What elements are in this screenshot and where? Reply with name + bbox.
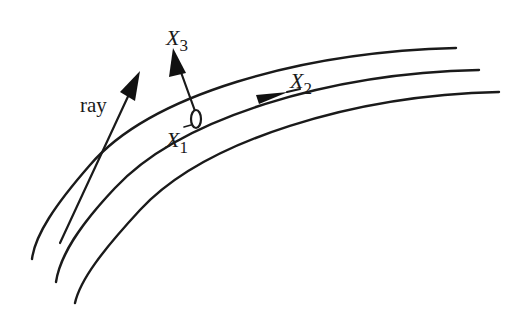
ray-arrowhead-icon	[120, 71, 140, 101]
ray-label: ray	[80, 93, 107, 117]
x1-label: X1	[165, 127, 188, 157]
x2-label-subscript: 2	[303, 79, 312, 98]
x3-label-subscript: 3	[179, 36, 188, 55]
x3-label: X3	[165, 25, 188, 55]
middle-surface-curve	[56, 70, 479, 282]
x1-leader-line	[184, 125, 191, 127]
surface-coordinate-diagram: ray X3 X2 X1	[0, 0, 528, 313]
x1-label-subscript: 1	[179, 138, 188, 157]
outer-surface-curve	[32, 48, 456, 259]
origin-marker-ellipse	[191, 110, 201, 128]
